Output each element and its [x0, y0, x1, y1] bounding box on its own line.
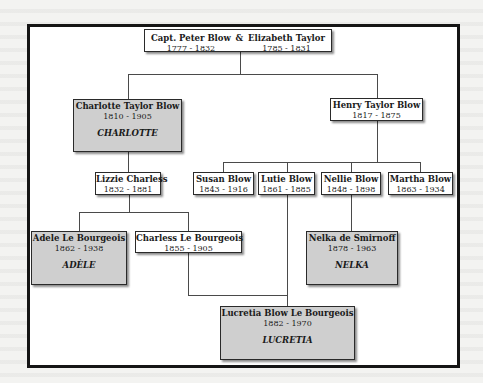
person-name: Adele Le Bourgeois [32, 234, 126, 244]
person-name: Lucretia Blow Le Bourgeois [221, 309, 354, 319]
person-box-adele: Adele Le Bourgeois 1862 - 1938 ADÈLE [31, 231, 127, 285]
connector-to-lutie [287, 162, 288, 172]
person-box-henry: Henry Taylor Blow 1817 - 1875 [330, 98, 423, 121]
connector-to-adele [79, 212, 80, 231]
person-box-lizzie: Lizzie Charless 1832 - 1881 [95, 172, 161, 195]
person-dates: 1878 - 1963 [307, 244, 397, 253]
person-dates: 1863 - 1934 [389, 185, 452, 194]
connector-lizzie-down [129, 195, 130, 212]
person-nickname: NELKA [307, 261, 397, 271]
person-name: Henry Taylor Blow [331, 101, 422, 111]
connector-gen2-bar [128, 74, 378, 75]
person-box-lutie: Lutie Blow 1861 - 1885 [258, 172, 315, 195]
person-dates: 1817 - 1875 [331, 111, 422, 120]
connector-charless-down [188, 252, 189, 295]
person-box-nelka: Nelka de Smirnoff 1878 - 1963 NELKA [306, 231, 398, 285]
connector-to-charlotte [128, 74, 129, 99]
person-dates: 1848 - 1898 [322, 185, 380, 194]
person-name: Martha Blow [389, 175, 452, 185]
person-name: Susan Blow [194, 175, 253, 185]
connector-charlotte-to-lizzie [128, 152, 129, 172]
person-nickname: LUCRETIA [221, 336, 354, 346]
connector-to-nellie [351, 162, 352, 172]
marriage-ampersand: & [236, 34, 244, 53]
person-dates: 1862 - 1938 [32, 244, 126, 253]
person-dates: 1882 - 1970 [221, 319, 354, 328]
connector-to-henry [377, 74, 378, 98]
connector-lutie-down [287, 195, 288, 306]
person-name: Capt. Peter Blow [151, 34, 231, 44]
person-dates: 1861 - 1885 [259, 185, 314, 194]
person-name: Lutie Blow [259, 175, 314, 185]
person-box-root-couple: Capt. Peter Blow 1777 - 1832 & Elizabeth… [144, 29, 332, 52]
connector-to-martha [420, 162, 421, 172]
person-box-charless: Charless Le Bourgeois 1855 - 1905 [135, 231, 242, 253]
connector-lizzie-children-bar [79, 212, 189, 213]
connector-nellie-to-nelka [351, 195, 352, 231]
person-nickname: ADÈLE [32, 261, 126, 271]
person-box-martha: Martha Blow 1863 - 1934 [388, 172, 453, 195]
person-dates: 1810 - 1905 [74, 112, 181, 121]
person-box-charlotte: Charlotte Taylor Blow 1810 - 1905 CHARLO… [73, 99, 182, 152]
person-dates: 1777 - 1832 [151, 44, 231, 53]
person-name: Nelka de Smirnoff [307, 234, 397, 244]
person-name: Lizzie Charless [96, 175, 160, 185]
connector-henry-down [377, 121, 378, 162]
connector-henry-children-bar [223, 162, 420, 163]
person-dates: 1855 - 1905 [136, 244, 241, 253]
person-dates: 1785 - 1831 [248, 44, 325, 53]
person-box-nellie: Nellie Blow 1848 - 1898 [321, 172, 381, 195]
connector-to-susan [223, 162, 224, 172]
person-box-susan: Susan Blow 1843 - 1916 [193, 172, 254, 195]
person-name: Nellie Blow [322, 175, 380, 185]
person-dates: 1832 - 1881 [96, 185, 160, 194]
person-dates: 1843 - 1916 [194, 185, 253, 194]
person-nickname: CHARLOTTE [74, 129, 181, 139]
person-box-lucretia: Lucretia Blow Le Bourgeois 1882 - 1970 L… [220, 306, 355, 360]
person-name: Elizabeth Taylor [248, 34, 325, 44]
connector-marriage-bar [188, 295, 288, 296]
connector-to-charless [188, 212, 189, 231]
connector-root-down [240, 52, 241, 74]
person-name: Charless Le Bourgeois [136, 234, 241, 244]
person-name: Charlotte Taylor Blow [74, 102, 181, 112]
